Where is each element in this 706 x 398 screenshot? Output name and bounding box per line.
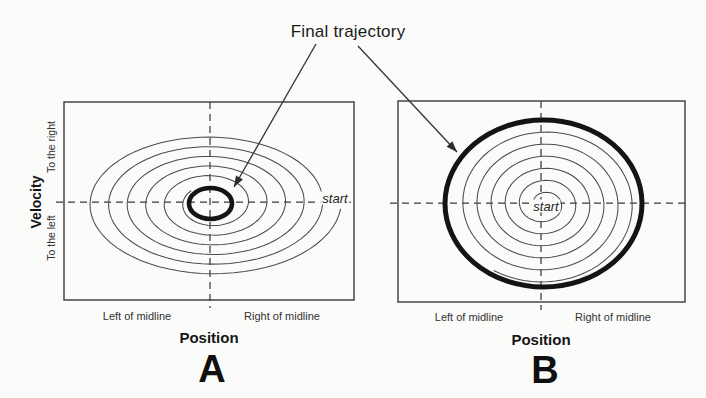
panel-a-y-axis-label: Velocity (29, 176, 43, 229)
panel-a-letter: A (198, 350, 225, 388)
annotation-arrows (234, 44, 457, 187)
panel-a-x-right-label: Right of midline (244, 311, 320, 322)
panel-a-x-left-label: Left of midline (103, 311, 171, 322)
panel-b-x-axis-label: Position (511, 332, 570, 347)
figure-title: Final trajectory (291, 23, 406, 40)
panel-a-y-top-label: To the right (46, 121, 57, 173)
panel-b-letter: B (531, 351, 558, 389)
panel-b-x-left-label: Left of midline (435, 312, 503, 323)
panel-a-inward-spiral (90, 137, 341, 274)
arrow-to-panel-a-head-icon (234, 175, 243, 187)
panel-b-start-label: start (531, 200, 560, 213)
panel-a-y-bottom-label: To the left (46, 215, 57, 261)
panel-b-x-right-label: Right of midline (575, 312, 651, 323)
arrow-to-panel-b (358, 46, 457, 152)
phase-plane-diagram (0, 0, 706, 398)
panel-a-start-label: start (320, 192, 349, 205)
phase-plane-figure: Final trajectory Velocity To the right T… (0, 0, 706, 398)
panel-a-plot (56, 102, 355, 308)
panel-a-frame (64, 102, 354, 300)
panel-a-x-axis-label: Position (179, 330, 238, 345)
